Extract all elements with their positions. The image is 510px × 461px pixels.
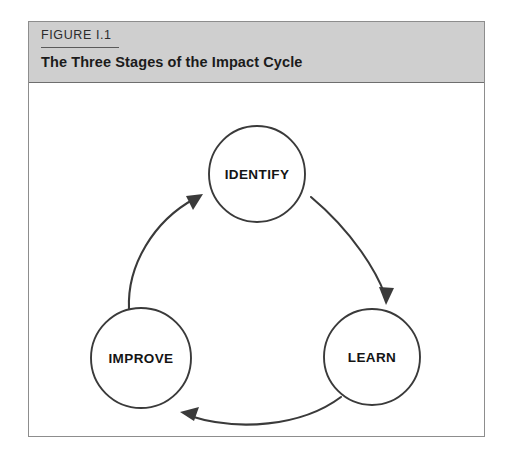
- arrow-improve-to-identify-path: [129, 199, 194, 309]
- figure-header: FIGURE I.1 The Three Stages of the Impac…: [29, 22, 484, 83]
- arrow-learn-to-improve: [180, 397, 341, 424]
- arrow-learn-to-improve-path: [190, 397, 341, 424]
- figure-title: The Three Stages of the Impact Cycle: [41, 54, 302, 70]
- node-learn: LEARN: [324, 309, 420, 405]
- figure-frame: FIGURE I.1 The Three Stages of the Impac…: [28, 21, 485, 437]
- figure-number: FIGURE I.1: [41, 28, 112, 42]
- arrow-identify-to-learn-path: [311, 197, 385, 295]
- arrow-identify-to-learn: [311, 197, 394, 305]
- node-identify-label: IDENTIFY: [225, 167, 290, 182]
- node-improve: IMPROVE: [91, 308, 191, 408]
- node-learn-label: LEARN: [348, 350, 397, 365]
- figure-number-rule: [41, 47, 119, 48]
- arrow-improve-to-identify: [129, 194, 203, 309]
- node-improve-label: IMPROVE: [108, 351, 173, 366]
- arrow-identify-to-learn-head: [379, 287, 394, 305]
- figure-body: IDENTIFY LEARN IMPROVE: [29, 83, 484, 436]
- impact-cycle-diagram: IDENTIFY LEARN IMPROVE: [29, 83, 484, 436]
- node-identify: IDENTIFY: [209, 126, 305, 222]
